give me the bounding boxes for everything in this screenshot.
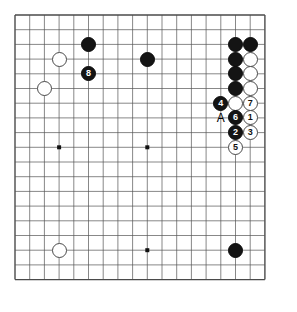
stone-white-move-7[interactable]: 7 xyxy=(243,96,258,111)
move-number-label: 6 xyxy=(233,113,238,122)
stone-white[interactable] xyxy=(243,81,258,96)
move-number-label: 2 xyxy=(233,128,238,137)
stone-white[interactable] xyxy=(228,96,243,111)
stone-white-move-3[interactable]: 3 xyxy=(243,125,258,140)
move-number-label: 8 xyxy=(86,69,91,78)
move-number-label: 3 xyxy=(248,128,253,137)
stone-black[interactable] xyxy=(228,81,243,96)
stone-white[interactable] xyxy=(52,52,67,67)
stone-white[interactable] xyxy=(37,81,52,96)
move-number-label: 7 xyxy=(248,98,253,107)
move-number-label: 5 xyxy=(233,142,238,151)
star-point xyxy=(145,145,149,149)
go-board-diagram: 84761235 A xyxy=(0,0,297,312)
stone-black[interactable] xyxy=(243,37,258,52)
stone-white-move-5[interactable]: 5 xyxy=(228,140,243,155)
stone-black[interactable] xyxy=(81,37,96,52)
move-number-label: 1 xyxy=(248,113,253,122)
star-point xyxy=(145,248,149,252)
board-marker-a[interactable]: A xyxy=(214,111,228,125)
stone-black[interactable] xyxy=(228,52,243,67)
stone-black[interactable] xyxy=(140,52,155,67)
move-number-label: 4 xyxy=(218,98,223,107)
stone-black[interactable] xyxy=(228,37,243,52)
star-point xyxy=(57,145,61,149)
stone-white[interactable] xyxy=(52,243,67,258)
stone-white[interactable] xyxy=(243,52,258,67)
stone-black[interactable] xyxy=(228,243,243,258)
